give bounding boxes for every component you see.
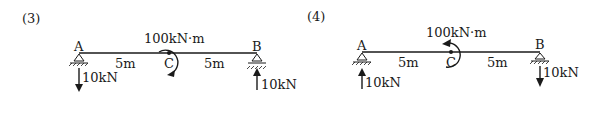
moment-label: 100kN·m <box>144 32 205 45</box>
roller-support-icon <box>530 53 549 64</box>
span-ac-length: 5m <box>398 56 419 69</box>
span-cb-length: 5m <box>487 56 508 69</box>
beam-diagram-3: (3) A B C 5m 5m 100kN·m 10kN 10kN <box>0 0 297 138</box>
beam-diagram-4: (4) A B C 5m 5m 100kN·m 10kN 10kN <box>295 0 592 138</box>
point-b-label: B <box>535 38 545 51</box>
beam-drawing-3 <box>0 0 297 138</box>
panel-number: (3) <box>22 12 40 25</box>
pin-support-icon <box>352 53 371 65</box>
point-c-label: C <box>446 56 456 69</box>
span-ac-length: 5m <box>115 57 136 70</box>
span-cb-length: 5m <box>204 57 225 70</box>
moment-label: 100kN·m <box>426 26 487 39</box>
point-a-label: A <box>74 40 83 53</box>
reaction-b-label: 10kN <box>261 78 297 91</box>
reaction-a-label: 10kN <box>365 76 401 89</box>
roller-support-icon <box>247 54 266 69</box>
arrow-up-icon <box>253 68 261 90</box>
point-c-label: C <box>164 57 174 70</box>
reaction-a-label: 10kN <box>82 71 118 84</box>
point-a-label: A <box>357 39 366 52</box>
point-b-label: B <box>252 40 262 53</box>
panel-number: (4) <box>307 10 325 23</box>
point-c-dot <box>449 50 453 54</box>
pin-support-icon <box>69 54 88 66</box>
reaction-b-label: 10kN <box>543 66 579 79</box>
